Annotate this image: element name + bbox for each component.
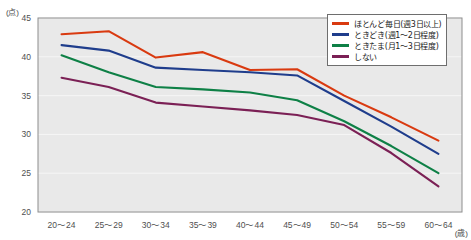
y-axis-tick-label: 45 xyxy=(22,13,32,23)
legend-item: ときどき(週1〜2日程度) xyxy=(332,29,441,40)
y-axis-tick-label: 30 xyxy=(22,129,32,139)
legend-item: ときたま(月1〜3日程度) xyxy=(332,40,441,51)
legend-color-swatch xyxy=(332,33,349,36)
y-axis-tick-label: 25 xyxy=(22,168,32,178)
x-axis-ticks-group: 20〜2425〜2930〜3435〜3940〜4445〜4950〜5455〜59… xyxy=(48,220,453,230)
legend-item-label: ほとんど毎日(週3日以上) xyxy=(354,18,441,29)
x-axis-tick-label: 30〜34 xyxy=(142,220,170,230)
y-axis-tick-label: 35 xyxy=(22,91,32,101)
y-axis-ticks-group: 202530354045 xyxy=(22,13,32,217)
x-axis-tick-label: 60〜64 xyxy=(424,220,452,230)
legend-item: しない xyxy=(332,51,441,62)
x-axis-tick-label: 40〜44 xyxy=(236,220,264,230)
x-axis-tick-label: 50〜54 xyxy=(330,220,358,230)
legend-item-label: ときどき(週1〜2日程度) xyxy=(354,29,439,40)
chart-legend: ほとんど毎日(週3日以上)ときどき(週1〜2日程度)ときたま(月1〜3日程度)し… xyxy=(327,14,447,66)
x-axis-tick-label: 35〜39 xyxy=(189,220,217,230)
x-axis-tick-label: 55〜59 xyxy=(377,220,405,230)
y-axis-tick-label: 40 xyxy=(22,52,32,62)
x-axis-tick-label: 45〜49 xyxy=(283,220,311,230)
legend-item: ほとんど毎日(週3日以上) xyxy=(332,18,441,29)
legend-color-swatch xyxy=(332,55,349,58)
y-axis-tick-label: 20 xyxy=(22,207,32,217)
x-axis-unit-label: (歳) xyxy=(455,227,468,238)
legend-item-label: ときたま(月1〜3日程度) xyxy=(354,40,439,51)
line-chart-figure: (点) 202530354045 20〜2425〜2930〜3435〜3940〜… xyxy=(0,0,471,240)
legend-color-swatch xyxy=(332,44,349,47)
legend-item-label: しない xyxy=(354,51,377,62)
legend-color-swatch xyxy=(332,22,349,25)
x-axis-tick-label: 20〜24 xyxy=(48,220,76,230)
x-axis-tick-label: 25〜29 xyxy=(95,220,123,230)
